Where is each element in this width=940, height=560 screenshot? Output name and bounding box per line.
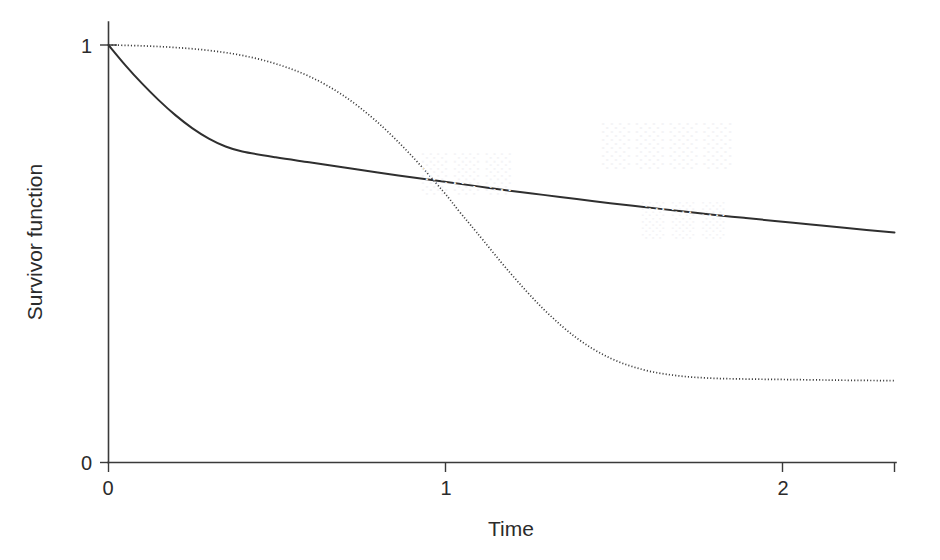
x-axis-title: Time (488, 517, 534, 540)
y-tick-label-0: 0 (81, 452, 92, 474)
y-axis-title: Survivor function (23, 164, 46, 320)
y-tick-label-1: 1 (81, 35, 92, 57)
dotted-survivor-curve (109, 45, 895, 381)
survivor-function-figure: ░░░░ ░░░ ░░░ 0 1 0 1 2 Time Survivor fun… (0, 0, 940, 560)
x-tick-label-0: 0 (102, 477, 113, 499)
x-tick-label-1: 1 (440, 477, 451, 499)
chart-canvas: 0 1 0 1 2 Time Survivor function (0, 0, 940, 560)
x-tick-label-2: 2 (777, 477, 788, 499)
solid-survivor-curve (109, 45, 895, 232)
